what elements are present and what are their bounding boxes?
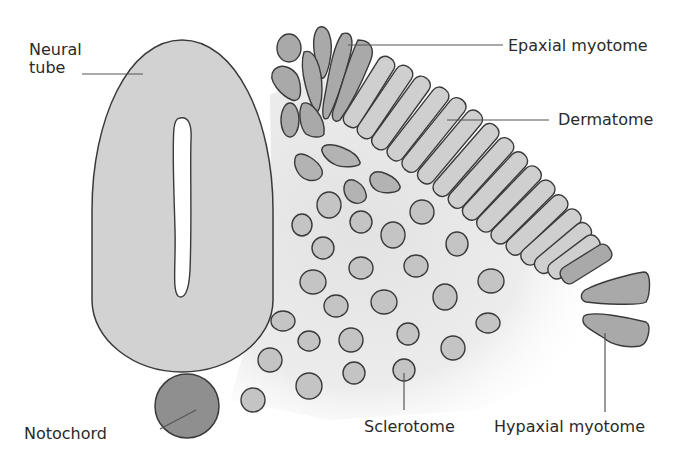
label-epaxial-myotome: Epaxial myotome — [508, 37, 648, 55]
neural-canal — [173, 118, 191, 297]
label-hypaxial-myotome: Hypaxial myotome — [494, 418, 645, 436]
notochord — [155, 374, 219, 438]
neural-tube — [92, 40, 273, 372]
label-notochord: Notochord — [24, 425, 107, 443]
label-dermatome: Dermatome — [558, 111, 653, 129]
label-neural-tube: Neural tube — [29, 41, 82, 77]
label-sclerotome: Sclerotome — [364, 418, 455, 436]
somite-diagram — [0, 0, 697, 464]
